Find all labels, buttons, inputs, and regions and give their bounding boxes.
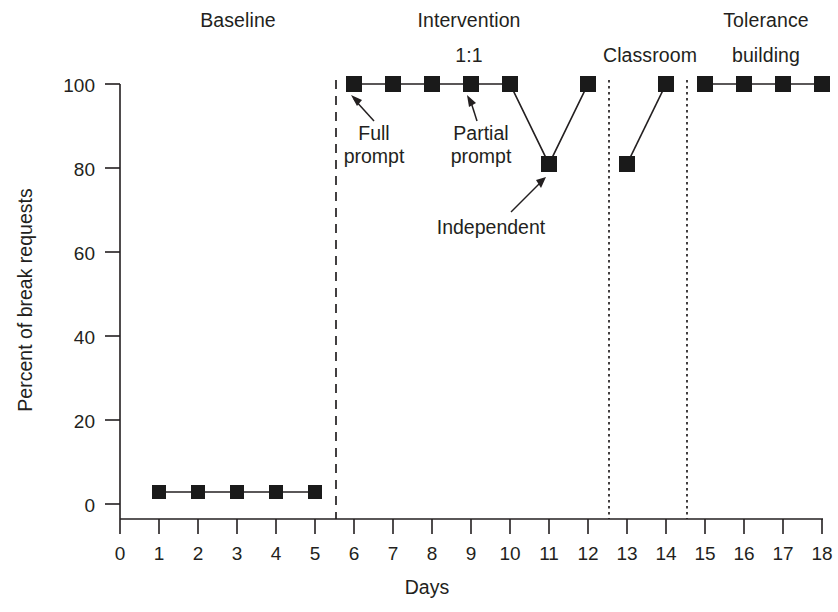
y-tick-label-0: 0 — [84, 495, 95, 516]
y-tick-label-100: 100 — [63, 75, 95, 96]
phase-label-intervention: Intervention — [417, 9, 520, 31]
data-point-day-1 — [152, 485, 166, 499]
data-point-day-5 — [308, 485, 322, 499]
data-point-day-15 — [697, 76, 713, 92]
independent-leader-line — [511, 181, 542, 212]
x-tick-label-5: 5 — [310, 543, 321, 564]
x-tick-label-18: 18 — [811, 543, 832, 564]
series-classroom-line — [627, 84, 666, 164]
annotation-label-full-prompt: prompt — [344, 145, 405, 167]
annotation-label-partial: Partial — [453, 122, 508, 144]
partial-prompt-arrow-icon — [467, 95, 476, 107]
phase-label-classroom: Classroom — [603, 44, 697, 66]
y-axis: 100 80 60 40 20 0 Percent of break reque… — [14, 75, 120, 519]
data-point-day-6 — [346, 76, 362, 92]
x-tick-label-6: 6 — [349, 543, 360, 564]
x-tick-label-3: 3 — [232, 543, 243, 564]
break-requests-line-chart: Baseline Intervention 1:1 Classroom Tole… — [0, 0, 838, 612]
annotation-partial-prompt: Partial prompt — [451, 95, 512, 167]
series-classroom — [619, 76, 674, 172]
data-point-day-10 — [502, 76, 518, 92]
series-baseline — [152, 485, 322, 499]
x-tick-label-8: 8 — [427, 543, 438, 564]
data-point-day-17 — [775, 76, 791, 92]
data-point-day-3 — [230, 485, 244, 499]
data-point-day-7 — [385, 76, 401, 92]
annotation-label-independent: Independent — [437, 216, 546, 238]
data-point-day-12 — [580, 76, 596, 92]
x-tick-label-14: 14 — [655, 543, 677, 564]
y-tick-label-80: 80 — [74, 159, 95, 180]
y-tick-label-40: 40 — [74, 327, 95, 348]
phase-label-tolerance-building: building — [732, 44, 800, 66]
data-point-day-14 — [658, 76, 674, 92]
data-point-day-9 — [463, 76, 479, 92]
x-axis-title: Days — [405, 576, 450, 598]
x-tick-label-12: 12 — [577, 543, 598, 564]
x-axis: 0 1 2 3 4 5 6 7 8 9 10 11 12 13 14 15 16… — [115, 519, 833, 598]
data-point-day-16 — [736, 76, 752, 92]
phase-label-baseline: Baseline — [200, 9, 276, 31]
full-prompt-arrow-icon — [351, 95, 362, 106]
data-point-day-2 — [191, 485, 205, 499]
annotation-full-prompt: Full prompt — [344, 95, 405, 167]
x-tick-label-15: 15 — [694, 543, 715, 564]
series-tolerance-building — [697, 76, 830, 92]
x-tick-label-2: 2 — [193, 543, 204, 564]
x-tick-label-0: 0 — [115, 543, 126, 564]
x-tick-label-9: 9 — [466, 543, 477, 564]
x-tick-label-1: 1 — [154, 543, 165, 564]
data-point-day-13 — [619, 156, 635, 172]
data-point-day-8 — [424, 76, 440, 92]
x-tick-label-17: 17 — [772, 543, 793, 564]
y-axis-title: Percent of break requests — [14, 188, 36, 412]
x-tick-label-10: 10 — [499, 543, 520, 564]
x-tick-label-13: 13 — [616, 543, 637, 564]
data-point-day-11 — [541, 156, 557, 172]
y-tick-label-20: 20 — [74, 411, 95, 432]
x-tick-label-7: 7 — [388, 543, 399, 564]
annotation-label-partial-prompt: prompt — [451, 145, 512, 167]
annotation-independent: Independent — [437, 177, 546, 238]
phase-label-intervention-ratio: 1:1 — [455, 44, 482, 66]
data-point-day-4 — [269, 485, 283, 499]
x-tick-label-4: 4 — [271, 543, 282, 564]
phase-labels: Baseline Intervention 1:1 Classroom Tole… — [200, 9, 809, 66]
chart-container: Baseline Intervention 1:1 Classroom Tole… — [0, 0, 838, 612]
data-point-day-18 — [814, 76, 830, 92]
phase-label-tolerance: Tolerance — [723, 9, 808, 31]
x-tick-label-11: 11 — [539, 543, 559, 564]
x-tick-label-16: 16 — [733, 543, 754, 564]
y-tick-label-60: 60 — [74, 243, 95, 264]
annotation-label-full: Full — [358, 122, 389, 144]
